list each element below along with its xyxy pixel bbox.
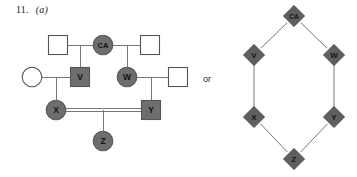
figure-root: 11.(a) or CAVWXYZ CAVWXYZ (0, 0, 357, 177)
pedigree-individual-z: Z (93, 131, 113, 151)
unaffected-male-symbol (49, 36, 68, 55)
pedigree-chart: CAVWXYZ (0, 0, 200, 177)
pedigree-individual-v: V (71, 68, 90, 87)
pedigree-individual-i7 (169, 68, 188, 87)
pedigree-individual-ca: CA (93, 35, 113, 55)
pedigree-individual-w: W (117, 67, 137, 87)
pedigree-individual-y: Y (142, 101, 161, 120)
affected-male-symbol (71, 68, 90, 87)
affected-female-symbol (93, 35, 113, 55)
graph-edge-ca-to-v (261, 23, 287, 49)
transmission-graph: CAVWXYZ (200, 0, 357, 177)
affected-female-symbol (93, 131, 113, 151)
pedigree-individual-i4 (22, 67, 42, 87)
pedigree-symbols: CAVWXYZ (22, 35, 187, 151)
affected-male-symbol (142, 101, 161, 120)
graph-edges (254, 23, 334, 152)
unaffected-male-symbol (141, 36, 160, 55)
affected-female-symbol (46, 100, 66, 120)
affected-female-symbol (117, 67, 137, 87)
pedigree-individual-i1 (49, 36, 68, 55)
unaffected-female-symbol (22, 67, 42, 87)
graph-edge-ca-to-w (301, 23, 327, 49)
graph-nodes: CAVWXYZ (244, 6, 345, 170)
pedigree-individual-x: X (46, 100, 66, 120)
graph-edge-x-to-z (261, 124, 288, 152)
pedigree-individual-i3 (141, 36, 160, 55)
unaffected-male-symbol (169, 68, 188, 87)
graph-edge-y-to-z (301, 124, 328, 152)
